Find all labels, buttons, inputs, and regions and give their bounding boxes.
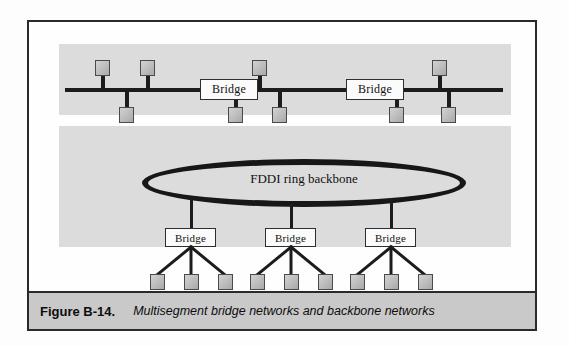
- bridge-box-bottom-2[interactable]: Bridge: [265, 228, 316, 247]
- node-drop-down-1: [125, 90, 129, 107]
- figure-number-label: Figure B-14.: [40, 304, 115, 319]
- workstation-node: [389, 107, 404, 123]
- figure-caption-bar: Figure B-14. Multisegment bridge network…: [27, 291, 537, 331]
- node-drop-up-2: [146, 76, 150, 90]
- node-drop-up-4: [438, 76, 442, 90]
- bus-line-segment-2: [258, 88, 346, 92]
- figure-caption-text: Multisegment bridge networks and backbon…: [133, 304, 435, 318]
- ring-to-bridge-riser-2: [290, 204, 293, 228]
- workstation-node: [441, 107, 456, 123]
- leaf-node: [150, 274, 165, 290]
- bridge-box-top-2[interactable]: Bridge: [346, 79, 404, 100]
- figure-frame: Bridge Bridge FDDI ring backbone Bridge …: [27, 20, 537, 331]
- node-drop-up-3: [258, 76, 262, 90]
- bus-line-segment-3: [404, 88, 503, 92]
- node-drop-down-5: [447, 90, 451, 107]
- bridge-box-top-1[interactable]: Bridge: [200, 79, 258, 100]
- ring-to-bridge-riser-3: [390, 198, 393, 228]
- leaf-node: [250, 274, 265, 290]
- workstation-node: [228, 107, 243, 123]
- workstation-node: [252, 60, 267, 76]
- workstation-node: [140, 60, 155, 76]
- bridge-box-bottom-1[interactable]: Bridge: [165, 228, 216, 247]
- workstation-node: [272, 107, 287, 123]
- leaf-node: [318, 274, 333, 290]
- bus-line-segment-1: [65, 88, 200, 92]
- ring-to-bridge-riser-1: [190, 198, 193, 228]
- leaf-node: [418, 274, 433, 290]
- workstation-node: [119, 107, 134, 123]
- leaf-node: [350, 274, 365, 290]
- leaf-node: [284, 274, 299, 290]
- node-drop-down-3: [278, 90, 282, 107]
- leaf-node: [218, 274, 233, 290]
- workstation-node: [95, 60, 110, 76]
- node-drop-up-1: [101, 76, 105, 90]
- workstation-node: [432, 60, 447, 76]
- fddi-ring-label: FDDI ring backbone: [142, 171, 466, 187]
- figure-page: Bridge Bridge FDDI ring backbone Bridge …: [0, 0, 569, 346]
- bridge-box-bottom-3[interactable]: Bridge: [365, 228, 416, 247]
- leaf-node: [184, 274, 199, 290]
- leaf-node: [384, 274, 399, 290]
